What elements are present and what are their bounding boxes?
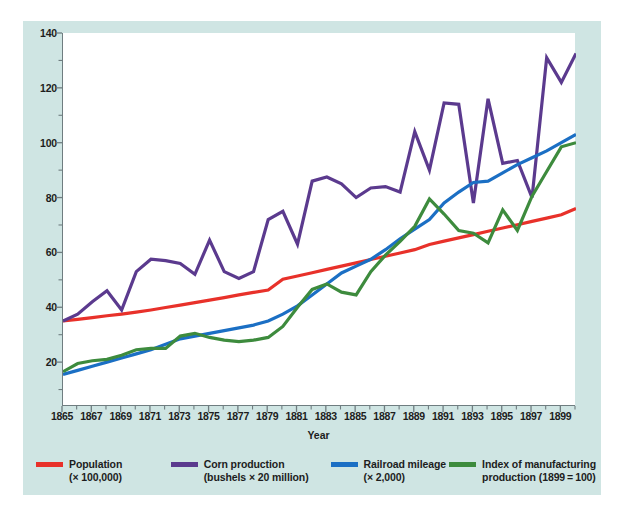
legend-label-manufacturing: Index of manufacturingproduction (1899 =…	[482, 458, 596, 483]
chart-legend: Population(× 100,000)Corn production(bus…	[36, 458, 596, 494]
legend-label-line1: Railroad mileage	[364, 458, 446, 471]
legend-label-corn: Corn production(bushels × 20 million)	[204, 458, 309, 483]
legend-item-manufacturing: Index of manufacturingproduction (1899 =…	[449, 458, 596, 494]
legend-swatch-railroad	[331, 462, 358, 467]
legend-label-line2: (× 2,000)	[364, 471, 446, 484]
legend-swatch-manufacturing	[449, 462, 476, 467]
legend-label-line2: (× 100,000)	[69, 471, 122, 484]
legend-swatch-population	[36, 462, 63, 467]
legend-label-railroad: Railroad mileage(× 2,000)	[364, 458, 446, 483]
x-axis-title: Year	[62, 429, 575, 441]
legend-label-line2: (bushels × 20 million)	[204, 471, 309, 484]
x-tick-label: 1899	[540, 410, 580, 422]
x-axis-label-group: 1865186718691871187318751877187918811883…	[62, 410, 575, 426]
legend-item-corn: Corn production(bushels × 20 million)	[171, 458, 331, 494]
legend-label-line1: Corn production	[204, 458, 309, 471]
legend-swatch-corn	[171, 462, 198, 467]
legend-label-line2: production (1899 = 100)	[482, 471, 596, 484]
legend-item-railroad: Railroad mileage(× 2,000)	[331, 458, 450, 494]
legend-label-line1: Population	[69, 458, 122, 471]
chart-figure: 14012010080604020 1865186718691871187318…	[0, 0, 622, 516]
legend-label-population: Population(× 100,000)	[69, 458, 122, 483]
legend-label-line1: Index of manufacturing	[482, 458, 596, 471]
legend-item-population: Population(× 100,000)	[36, 458, 171, 494]
